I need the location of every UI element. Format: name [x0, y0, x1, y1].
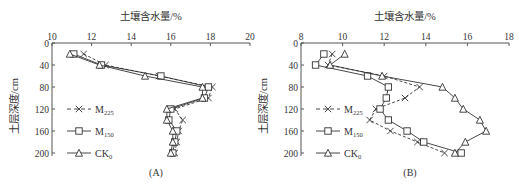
y-tick-label: 200: [35, 149, 50, 159]
m225-x-marker-icon: [80, 51, 86, 57]
m150-square-marker-icon: [385, 84, 391, 90]
ck0-triangle-marker-icon: [341, 50, 348, 57]
legend-item-m150: M150: [316, 126, 363, 139]
y-tick-label: 0: [44, 39, 49, 49]
ck0-triangle-marker-icon: [483, 127, 490, 134]
m150-square-marker-icon: [385, 117, 391, 123]
panel-b: 8101214161804080120160200土壤含水量/%土层深度/cmM…: [257, 10, 514, 179]
m150-square-marker-icon: [321, 51, 327, 57]
y-tick-label: 0: [293, 39, 298, 49]
legend-label: CK0: [95, 148, 112, 161]
m150-square-marker-icon: [404, 128, 410, 134]
y-tick-label: 80: [40, 83, 50, 93]
x-tick-label: 20: [245, 32, 255, 42]
y-axis-title: 土层深度/cm: [257, 78, 269, 134]
panel-a: 10121416182004080120160200土壤含水量/%土层深度/cm…: [8, 10, 255, 179]
legend-label: M225: [95, 104, 114, 117]
y-axis-title: 土层深度/cm: [8, 78, 20, 134]
x-axis-title: 土壤含水量/%: [374, 10, 436, 22]
x-tick-label: 12: [379, 32, 389, 42]
legend-label: M150: [344, 126, 363, 139]
m225-x-marker-icon: [416, 84, 422, 90]
y-tick-label: 40: [40, 61, 50, 71]
m225-x-marker-icon: [329, 51, 335, 57]
legend-item-ck0: CK0: [316, 148, 361, 161]
legend-m150-square-marker-icon: [76, 128, 82, 134]
legend: M225M150CK0: [316, 104, 363, 161]
x-axis-title: 土壤含水量/%: [120, 10, 182, 22]
legend: M225M150CK0: [67, 104, 114, 161]
y-tick-label: 200: [284, 149, 299, 159]
series-m150: [312, 51, 464, 156]
x-tick-label: 14: [126, 32, 136, 42]
m150-square-marker-icon: [383, 95, 389, 101]
legend-item-ck0: CK0: [67, 148, 112, 161]
legend-label: M225: [344, 104, 363, 117]
m225-x-marker-icon: [441, 150, 447, 156]
m225-x-marker-icon: [179, 117, 185, 123]
panel-label: (A): [149, 167, 163, 179]
m150-square-marker-icon: [377, 106, 383, 112]
x-tick-label: 18: [206, 32, 216, 42]
m225-x-marker-icon: [366, 117, 372, 123]
m150-square-marker-icon: [421, 139, 427, 145]
y-tick-label: 120: [35, 105, 50, 115]
y-tick-label: 120: [284, 105, 299, 115]
ck0-triangle-marker-icon: [476, 116, 483, 123]
ck0-triangle-marker-icon: [462, 138, 469, 145]
x-tick-label: 16: [166, 32, 176, 42]
legend-item-m225: M225: [316, 104, 363, 117]
m150-square-marker-icon: [458, 150, 464, 156]
legend-label: M150: [95, 126, 114, 139]
chart-canvas: 10121416182004080120160200土壤含水量/%土层深度/cm…: [0, 0, 527, 191]
series-m150: [71, 51, 212, 156]
legend-m150-square-marker-icon: [325, 128, 331, 134]
legend-item-m225: M225: [67, 104, 114, 117]
x-tick-label: 8: [299, 32, 304, 42]
y-tick-label: 80: [289, 83, 299, 93]
panel-label: (B): [403, 167, 416, 179]
m225-x-marker-icon: [402, 95, 408, 101]
y-tick-label: 160: [35, 127, 50, 137]
y-tick-label: 160: [284, 127, 299, 137]
m150-square-marker-icon: [205, 84, 211, 90]
m225-x-marker-icon: [387, 128, 393, 134]
legend-item-m150: M150: [67, 126, 114, 139]
x-tick-label: 14: [421, 32, 431, 42]
series-ck0: [66, 50, 206, 156]
legend-label: CK0: [344, 148, 361, 161]
y-tick-label: 40: [289, 61, 299, 71]
figure: 10121416182004080120160200土壤含水量/%土层深度/cm…: [0, 0, 527, 191]
x-tick-label: 12: [87, 32, 97, 42]
x-tick-label: 10: [338, 32, 348, 42]
m150-square-marker-icon: [312, 62, 318, 68]
x-tick-label: 16: [463, 32, 473, 42]
x-tick-label: 18: [504, 32, 514, 42]
